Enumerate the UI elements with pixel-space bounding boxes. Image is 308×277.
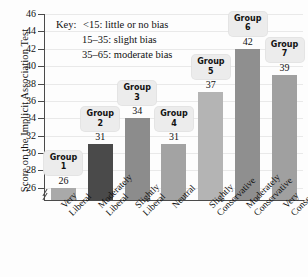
y-tick-label-34: 34 — [14, 113, 36, 123]
y-tick-28 — [38, 170, 44, 171]
y-tick-40 — [38, 66, 44, 67]
group-callout-word: Group — [155, 109, 193, 119]
y-tick-label-42: 42 — [14, 44, 36, 54]
group-callout: Group1 — [44, 151, 82, 175]
bar-value-label: 31 — [80, 132, 120, 142]
axis-break-icon — [41, 190, 49, 199]
legend-title: Key: — [56, 19, 76, 30]
y-tick-label-44: 44 — [14, 26, 36, 36]
group-callout: Group4 — [155, 107, 193, 131]
group-callout-word: Group — [118, 83, 156, 93]
y-tick-46 — [38, 14, 44, 15]
group-callout-number: 2 — [81, 119, 119, 129]
gridline-38 — [45, 84, 303, 85]
y-tick-label-46: 46 — [14, 9, 36, 19]
group-callout-number: 5 — [192, 67, 230, 77]
y-tick-label-26: 26 — [14, 183, 36, 193]
y-tick-label-36: 36 — [14, 96, 36, 106]
group-callout: Group5 — [192, 55, 230, 79]
group-callout-number: 1 — [44, 162, 82, 172]
bar-value-label: 39 — [265, 63, 305, 73]
legend-item-2: 35–65: moderate bias — [82, 49, 172, 60]
group-callout-word: Group — [81, 109, 119, 119]
y-tick-32 — [38, 136, 44, 137]
bar-value-label: 37 — [191, 80, 231, 90]
bar[interactable] — [198, 92, 223, 200]
y-tick-label-32: 32 — [14, 131, 36, 141]
legend-key: Key: <15: little or no bias 15–35: sligh… — [56, 17, 172, 62]
group-callout-number: 4 — [155, 119, 193, 129]
y-tick-label-38: 38 — [14, 79, 36, 89]
group-callout-word: Group — [44, 153, 82, 163]
bar-chart: Score on the Implicit Association Test 2… — [0, 0, 308, 277]
group-callout: Group3 — [118, 81, 156, 105]
legend-row-0: Key: <15: little or no bias — [56, 17, 172, 32]
y-tick-label-30: 30 — [14, 148, 36, 158]
group-callout: Group2 — [81, 107, 119, 131]
y-tick-42 — [38, 49, 44, 50]
bar-value-label: 42 — [228, 37, 268, 47]
group-callout-number: 6 — [229, 23, 267, 33]
group-callout-word: Group — [229, 14, 267, 24]
legend-item-0: <15: little or no bias — [79, 19, 168, 30]
y-tick-38 — [38, 84, 44, 85]
gridline-36 — [45, 101, 303, 102]
legend-row-2: 35–65: moderate bias — [56, 47, 172, 62]
y-tick-label-40: 40 — [14, 61, 36, 71]
group-callout-word: Group — [192, 57, 230, 67]
group-callout-number: 3 — [118, 93, 156, 103]
group-callout-number: 7 — [266, 49, 304, 59]
group-callout: Group6 — [229, 12, 267, 36]
legend-row-1: 15–35: slight bias — [56, 32, 172, 47]
legend-item-1: 15–35: slight bias — [82, 34, 157, 45]
group-callout-word: Group — [266, 40, 304, 50]
group-callout: Group7 — [266, 38, 304, 62]
bar-value-label: 31 — [154, 132, 194, 142]
y-tick-30 — [38, 153, 44, 154]
y-tick-26 — [38, 188, 44, 189]
y-tick-36 — [38, 101, 44, 102]
bar-value-label: 34 — [117, 106, 157, 116]
y-tick-label-28: 28 — [14, 165, 36, 175]
y-tick-34 — [38, 118, 44, 119]
y-tick-44 — [38, 31, 44, 32]
